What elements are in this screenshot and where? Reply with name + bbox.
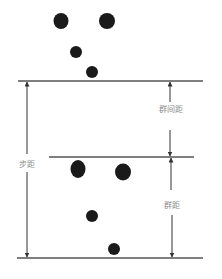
dot (86, 210, 98, 222)
dot (108, 243, 120, 255)
group-distance-dimension: 群距 (164, 158, 180, 257)
dot (86, 66, 98, 78)
step-distance-label: 步距 (19, 160, 35, 169)
dot (54, 13, 69, 29)
footprint-spacing-diagram: 步距 群间距 群距 (0, 0, 222, 279)
inter-group-distance-dimension: 群间距 (159, 82, 183, 156)
step-distance-dimension: 步距 (19, 82, 35, 257)
upper-group (54, 13, 116, 78)
inter-group-distance-label: 群间距 (159, 104, 183, 114)
dot (71, 160, 86, 178)
dot (99, 13, 115, 29)
dot (115, 164, 131, 181)
group-distance-label: 群距 (164, 200, 180, 210)
lower-group (71, 160, 132, 255)
dot (70, 46, 82, 58)
